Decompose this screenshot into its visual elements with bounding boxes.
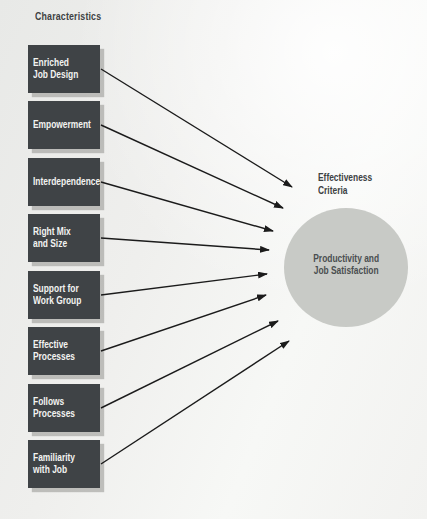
arrow-connector bbox=[101, 295, 266, 351]
arrow-connector bbox=[101, 274, 267, 295]
arrows-layer bbox=[0, 0, 427, 519]
arrow-connector bbox=[101, 238, 269, 250]
arrow-connector bbox=[101, 341, 289, 464]
arrow-connector bbox=[101, 321, 278, 408]
arrow-connector bbox=[101, 125, 283, 208]
arrow-connector bbox=[101, 182, 273, 231]
diagram-canvas: Characteristics Effectiveness Criteria P… bbox=[0, 0, 427, 519]
